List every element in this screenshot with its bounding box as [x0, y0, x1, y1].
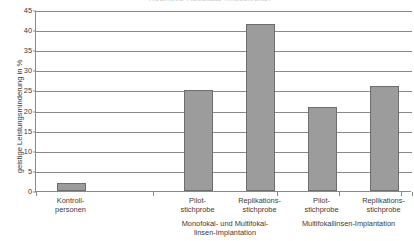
bar — [57, 183, 86, 191]
gridline — [36, 11, 412, 12]
y-tick-label: 5 — [28, 168, 32, 175]
y-tick-label: 40 — [24, 27, 32, 34]
y-tick-mark — [33, 111, 36, 112]
x-category-label: Replikations- stichprobe — [344, 196, 414, 215]
bar — [184, 90, 213, 191]
gridline — [36, 172, 412, 173]
gridline — [36, 31, 412, 32]
y-tick-mark — [33, 91, 36, 92]
y-tick-label: 20 — [24, 108, 32, 115]
bar-chart: Kognitive Resultate (Messwerte) geistige… — [0, 0, 414, 241]
group-label-multifokallinsen: Multifokallinsen-Implantation — [283, 219, 414, 228]
y-axis-title: geistige Leistungsminderung in % — [15, 42, 24, 192]
gridline — [36, 132, 412, 133]
y-tick-mark — [33, 171, 36, 172]
plot-area: 051015202530354045 — [35, 11, 411, 192]
gridline — [36, 152, 412, 153]
gridline — [36, 112, 412, 113]
group-label-monofokal-multifokal: Monofokal- und Multifokal- linsen-Implan… — [155, 219, 295, 238]
bar — [370, 86, 399, 191]
y-tick-label: 30 — [24, 68, 32, 75]
y-tick-mark — [33, 51, 36, 52]
x-tick-mark — [153, 192, 154, 196]
y-tick-label: 25 — [24, 88, 32, 95]
y-tick-label: 35 — [24, 48, 32, 55]
y-tick-label: 45 — [24, 7, 32, 14]
gridline — [36, 91, 412, 92]
y-tick-mark — [33, 11, 36, 12]
gridline — [36, 71, 412, 72]
y-tick-mark — [33, 151, 36, 152]
y-tick-label: 10 — [24, 148, 32, 155]
y-tick-label: 15 — [24, 128, 32, 135]
y-tick-label: 0 — [28, 188, 32, 195]
bar — [308, 107, 337, 191]
chart-title: Kognitive Resultate (Messwerte) — [70, 0, 350, 1]
x-category-label: Kontroll- personen — [31, 196, 111, 215]
bar — [246, 24, 275, 191]
y-tick-mark — [33, 31, 36, 32]
gridline — [36, 51, 412, 52]
y-tick-mark — [33, 71, 36, 72]
y-tick-mark — [33, 131, 36, 132]
